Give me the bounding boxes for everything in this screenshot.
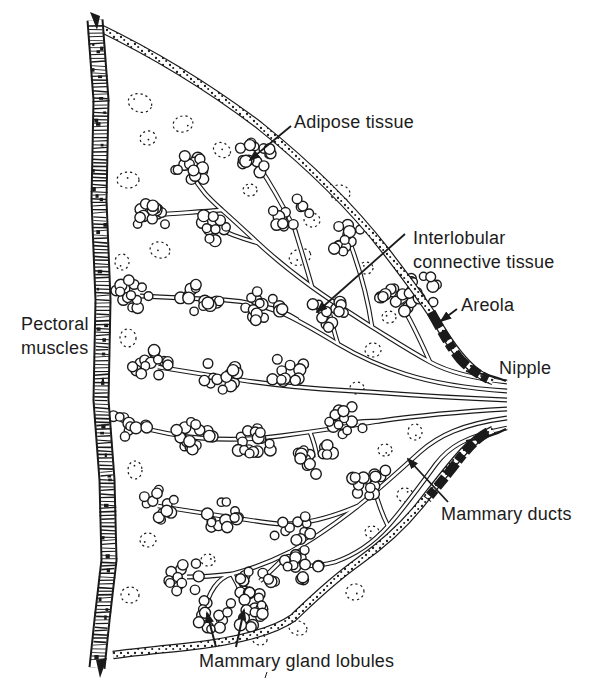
areola-marking (427, 312, 488, 499)
label-adipose-tissue: Adipose tissue (294, 110, 414, 134)
label-mammary-ducts: Mammary ducts (441, 502, 572, 526)
breast-anatomy-illustration (0, 0, 591, 692)
label-interlobular-line2: connective tissue (413, 250, 554, 274)
label-areola: Areola (461, 293, 514, 317)
label-nipple: Nipple (499, 356, 551, 380)
pectoral-muscle-band (88, 12, 118, 678)
label-pectoral-line1: Pectoral (21, 312, 89, 336)
anatomy-diagram-page: Adipose tissue Interlobular connective t… (0, 0, 591, 692)
label-pectoral-muscles: Pectoral muscles (21, 312, 89, 360)
label-pectoral-line2: muscles (21, 336, 89, 360)
arrow-areola (441, 309, 457, 321)
label-mammary-gland-lobules: Mammary gland lobules (199, 649, 394, 673)
label-interlobular-connective-tissue: Interlobular connective tissue (413, 226, 554, 274)
label-interlobular-line1: Interlobular (413, 226, 554, 250)
